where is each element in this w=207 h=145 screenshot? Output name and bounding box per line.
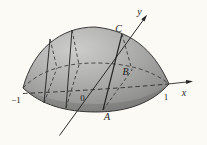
x-axis-solid-segment bbox=[168, 82, 188, 84]
point-a-label: A bbox=[103, 111, 111, 122]
x-axis-label: x bbox=[181, 87, 187, 98]
tick-pos1-label: 1 bbox=[164, 92, 169, 102]
point-b-label: B bbox=[122, 66, 128, 77]
point-c-label: C bbox=[115, 23, 122, 34]
y-axis-arrowhead-icon bbox=[141, 15, 147, 22]
y-axis-label: y bbox=[136, 6, 142, 17]
origin-tick-label: 0 bbox=[80, 93, 85, 103]
x-axis-arrowhead-icon bbox=[186, 80, 193, 84]
figure-container: y x C B A 0 −1 1 bbox=[0, 0, 207, 145]
math-figure-canvas: y x C B A 0 −1 1 bbox=[0, 0, 207, 145]
tick-neg1-label: −1 bbox=[11, 95, 21, 105]
